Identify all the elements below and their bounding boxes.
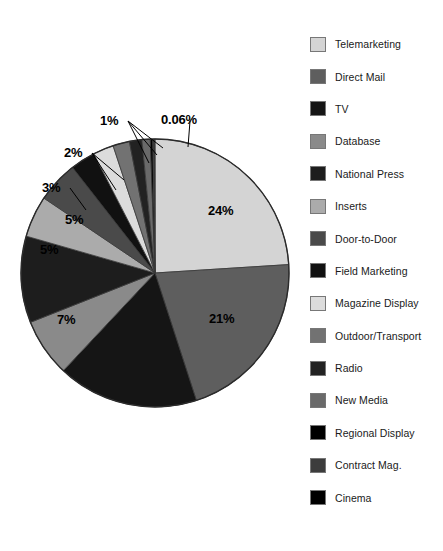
pie-chart-svg	[0, 0, 300, 551]
legend-item-label: Magazine Display	[335, 297, 419, 309]
legend-item[interactable]: TV	[310, 93, 443, 125]
legend-item-label: Regional Display	[335, 427, 415, 439]
legend-swatch-icon	[310, 37, 326, 52]
slice-label-database: 7%	[57, 312, 75, 327]
legend-swatch-icon	[310, 328, 326, 343]
legend-item[interactable]: Inserts	[310, 190, 443, 222]
legend-item-label: Inserts	[335, 200, 367, 212]
legend-item[interactable]: New Media	[310, 384, 443, 416]
legend-swatch-icon	[310, 361, 326, 376]
legend-swatch-icon	[310, 490, 326, 505]
legend-item[interactable]: Radio	[310, 352, 443, 384]
slice-label-outdoor-transport: 2%	[64, 145, 82, 160]
legend-swatch-icon	[310, 199, 326, 214]
legend-item-label: Field Marketing	[335, 265, 408, 277]
legend-item[interactable]: National Press	[310, 158, 443, 190]
legend-item[interactable]: Field Marketing	[310, 255, 443, 287]
legend-swatch-icon	[310, 296, 326, 311]
legend-item-label: Direct Mail	[335, 71, 385, 83]
legend-swatch-icon	[310, 263, 326, 278]
legend-item[interactable]: Direct Mail	[310, 60, 443, 92]
legend-item[interactable]: Contract Mag.	[310, 449, 443, 481]
legend-item-label: Door-to-Door	[335, 233, 397, 245]
slice-label-inserts: 5%	[40, 242, 58, 257]
legend-item-label: National Press	[335, 168, 404, 180]
legend-item[interactable]: Magazine Display	[310, 287, 443, 319]
pie-chart-page: 24% 21% 7% 5% 5% 3% 2% 1% 0.06% Telemark…	[0, 0, 443, 551]
legend-item-label: New Media	[335, 394, 388, 406]
legend-item[interactable]: Door-to-Door	[310, 222, 443, 254]
legend-item-label: Contract Mag.	[335, 459, 402, 471]
slice-label-door-to-door: 5%	[65, 212, 83, 227]
slice-label-telemarketing: 24%	[208, 203, 233, 218]
slice-label-cinema: 0.06%	[161, 112, 197, 127]
pie-slice[interactable]	[154, 139, 155, 273]
legend-item-label: Outdoor/Transport	[335, 330, 421, 342]
legend-swatch-icon	[310, 134, 326, 149]
legend-swatch-icon	[310, 69, 326, 84]
legend-swatch-icon	[310, 101, 326, 116]
pie-slices-group	[21, 139, 289, 407]
legend-item-label: TV	[335, 103, 349, 115]
pie-chart-area: 24% 21% 7% 5% 5% 3% 2% 1% 0.06%	[0, 0, 300, 551]
legend-item[interactable]: Cinema	[310, 481, 443, 513]
legend-swatch-icon	[310, 458, 326, 473]
legend-item[interactable]: Outdoor/Transport	[310, 320, 443, 352]
legend-item[interactable]: Regional Display	[310, 417, 443, 449]
legend-item[interactable]: Database	[310, 125, 443, 157]
legend-swatch-icon	[310, 231, 326, 246]
legend-item-label: Radio	[335, 362, 363, 374]
legend-item-label: Cinema	[335, 492, 371, 504]
slice-label-new-media: 1%	[100, 113, 118, 128]
legend-swatch-icon	[310, 425, 326, 440]
slice-label-field-marketing: 3%	[42, 180, 60, 195]
legend-item-label: Telemarketing	[335, 38, 401, 50]
slice-label-direct-mail: 21%	[209, 311, 234, 326]
legend-item-label: Database	[335, 135, 380, 147]
legend-item[interactable]: Telemarketing	[310, 28, 443, 60]
legend-swatch-icon	[310, 166, 326, 181]
legend-swatch-icon	[310, 393, 326, 408]
chart-legend: TelemarketingDirect MailTVDatabaseNation…	[310, 28, 443, 514]
